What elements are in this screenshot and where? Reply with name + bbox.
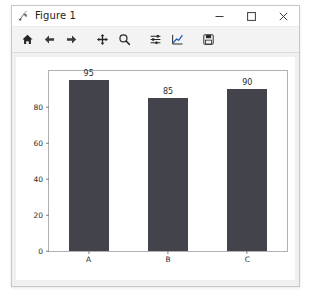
y-tick: 20 xyxy=(33,211,49,219)
x-tick-label: B xyxy=(165,256,170,264)
toolbar-separator xyxy=(188,29,197,51)
x-tick: A xyxy=(86,251,91,264)
bar-value-label: 85 xyxy=(163,88,173,96)
window-titlebar: Figure 1 xyxy=(12,6,299,27)
arrow-left-icon xyxy=(43,33,56,46)
x-tick-mark xyxy=(247,251,248,254)
y-tick: 80 xyxy=(33,103,49,111)
bar[interactable] xyxy=(227,89,267,251)
pan-button[interactable] xyxy=(91,29,113,51)
y-tick: 60 xyxy=(33,139,49,147)
bar-group: 95 xyxy=(49,71,128,251)
figure-canvas[interactable]: 0 20 40 60 8 xyxy=(16,57,295,280)
sliders-icon xyxy=(149,33,162,46)
bar[interactable] xyxy=(69,80,109,251)
y-tick-label: 40 xyxy=(33,175,43,183)
axis-curve-icon xyxy=(171,33,184,46)
figure-window: Figure 1 xyxy=(11,5,300,287)
bar-group: 90 xyxy=(208,71,287,251)
y-tick-label: 0 xyxy=(38,247,43,255)
desktop-backdrop: Figure 1 xyxy=(0,0,311,300)
toolbar-separator xyxy=(82,29,91,51)
home-button[interactable] xyxy=(16,29,38,51)
window-controls xyxy=(203,6,299,27)
back-button[interactable] xyxy=(38,29,60,51)
save-button[interactable] xyxy=(197,29,219,51)
y-tick: 0 xyxy=(38,247,49,255)
navigation-toolbar xyxy=(12,27,299,53)
y-tick: 40 xyxy=(33,175,49,183)
bar[interactable] xyxy=(148,98,188,251)
figure-canvas-wrapper: 0 20 40 60 8 xyxy=(12,53,299,286)
floppy-disk-icon xyxy=(202,33,215,46)
y-tick-label: 60 xyxy=(33,139,43,147)
y-tick-label: 20 xyxy=(33,211,43,219)
bar-series: 95 85 90 xyxy=(49,71,287,251)
window-title: Figure 1 xyxy=(35,11,76,21)
maximize-button[interactable] xyxy=(235,6,267,27)
chart-axes: 0 20 40 60 8 xyxy=(48,70,288,252)
x-tick: C xyxy=(245,251,250,264)
edit-axis-button[interactable] xyxy=(166,29,188,51)
minimize-button[interactable] xyxy=(203,6,235,27)
bar-value-label: 95 xyxy=(84,70,94,78)
matplotlib-icon xyxy=(18,10,30,22)
bar-value-label: 90 xyxy=(242,79,252,87)
configure-subplots-button[interactable] xyxy=(144,29,166,51)
zoom-button[interactable] xyxy=(113,29,135,51)
y-tick-label: 80 xyxy=(33,103,43,111)
minimize-icon xyxy=(214,11,225,22)
bar-group: 85 xyxy=(128,71,207,251)
arrow-right-icon xyxy=(65,33,78,46)
close-icon xyxy=(278,11,289,22)
x-tick-mark xyxy=(88,251,89,254)
forward-button[interactable] xyxy=(60,29,82,51)
x-tick: B xyxy=(165,251,170,264)
move-cross-icon xyxy=(96,33,109,46)
maximize-icon xyxy=(246,11,257,22)
toolbar-separator xyxy=(135,29,144,51)
magnifier-icon xyxy=(118,33,131,46)
x-tick-label: A xyxy=(86,256,91,264)
x-tick-mark xyxy=(168,251,169,254)
close-button[interactable] xyxy=(267,6,299,27)
home-icon xyxy=(21,33,34,46)
x-tick-label: C xyxy=(245,256,250,264)
